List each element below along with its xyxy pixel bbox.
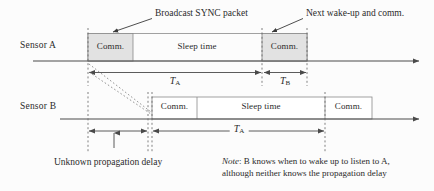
note-line-1: Note: B knows when to wake up to listen … [222,156,390,168]
tb-a-subscript: B [285,79,290,87]
next-wakeup-callout: Next wake-up and comm. [306,8,404,19]
propagation-delay-caption: Unknown propagation delay [54,157,162,168]
ta-b-subscript: A [239,127,244,135]
sensor-a-tb-label: TB [280,75,290,88]
sensor-a-row-label: Sensor A [20,40,56,51]
sensor-b-comm-1-label: Comm. [161,101,188,111]
note-line-2: although neither knows the propagation d… [222,168,390,180]
sensor-b-row-label: Sensor B [20,101,56,112]
sensor-b-comm-2-label: Comm. [335,101,362,111]
note-caption: Note: B knows when to wake up to listen … [222,156,390,180]
sensor-a-comm-2-label: Comm. [271,41,298,51]
sensor-a-sleep-label: Sleep time [177,41,216,51]
sensor-b-ta-label: TA [230,123,249,136]
sensor-b-sleep-label: Sleep time [241,101,280,111]
note-prefix: Note [222,156,239,166]
note-line-1-text: : B knows when to wake up to listen to A… [239,156,390,166]
ta-a-subscript: A [175,79,180,87]
sync-timing-figure: Sensor A Sensor B Comm. Sleep time Comm.… [0,0,434,191]
sensor-a-ta-label: TA [170,75,181,88]
broadcast-sync-callout: Broadcast SYNC packet [155,8,248,19]
sensor-a-comm-1-label: Comm. [97,41,124,51]
